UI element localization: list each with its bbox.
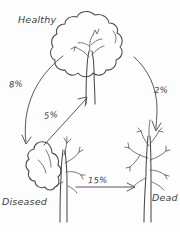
state-label-diseased: Diseased: [2, 196, 47, 207]
arrow-diseased-to-healthy: [44, 97, 87, 145]
dead-tree-icon: [125, 120, 170, 222]
transition-label-diseased-to-dead: 15%: [88, 175, 108, 186]
diseased-tree-icon: [26, 137, 85, 222]
state-label-dead: Dead: [152, 192, 178, 203]
diagram-canvas: Healthy Diseased Dead 8% 5% 2% 15%: [0, 0, 180, 232]
transition-label-healthy-to-diseased: 8%: [9, 79, 24, 90]
transition-label-healthy-to-dead: 2%: [154, 85, 168, 96]
transition-label-diseased-to-healthy: 5%: [44, 109, 59, 120]
state-label-healthy: Healthy: [18, 14, 56, 25]
